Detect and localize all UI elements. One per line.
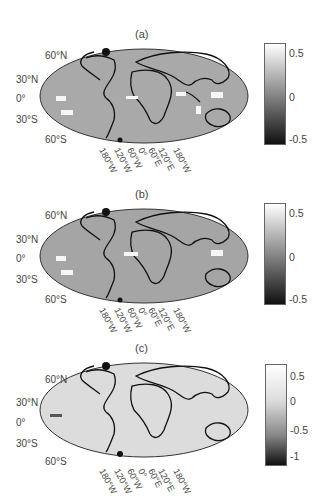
- lat-tick: 60°N: [45, 210, 67, 221]
- lat-tick: 30°S: [16, 274, 38, 285]
- colorbar-tick: -0.5: [289, 293, 307, 305]
- lat-tick: 60°S: [45, 134, 67, 145]
- world-map: [36, 200, 256, 306]
- panel-c: (c) 60°N 30°N 0° 30°S 60°S 180°W 120°W 6…: [0, 335, 329, 500]
- world-map: [36, 354, 256, 460]
- panel-b: (b) 60°N 30°N 0° 30°S 60°S 180°W 120°W 6…: [0, 170, 329, 335]
- lat-tick: 0°: [16, 417, 26, 428]
- lat-tick: 30°N: [16, 74, 38, 85]
- lat-tick: 60°S: [45, 456, 67, 467]
- lat-tick: 0°: [16, 93, 26, 104]
- lat-tick: 30°S: [16, 114, 38, 125]
- panel-title: (c): [135, 342, 148, 354]
- colorbar: [265, 364, 287, 466]
- colorbar-tick: 0.5: [290, 370, 305, 382]
- lat-tick: 30°N: [16, 234, 38, 245]
- colorbar-tick: -0.5: [289, 133, 307, 145]
- colorbar-tick: -1: [290, 450, 299, 462]
- colorbar-tick: -0.5: [290, 424, 308, 436]
- colorbar: [264, 203, 286, 305]
- colorbar-tick: 0: [289, 251, 295, 263]
- lon-tick: 180°W: [171, 467, 193, 496]
- colorbar-tick: 0: [290, 395, 296, 407]
- lat-tick: 30°S: [16, 438, 38, 449]
- panel-a: (a) 60°N 30°N 0° 30°S 60°S 180°W 120°W 6…: [0, 0, 329, 165]
- panel-title: (b): [135, 188, 148, 200]
- colorbar-tick: 0.5: [289, 207, 304, 219]
- panel-title: (a): [135, 28, 148, 40]
- lat-tick: 60°S: [45, 294, 67, 305]
- lat-tick: 60°N: [45, 374, 67, 385]
- lat-tick: 30°N: [16, 397, 38, 408]
- world-map: [36, 40, 256, 146]
- lon-tick: 180°W: [171, 306, 193, 335]
- colorbar: [264, 43, 286, 145]
- colorbar-tick: 0: [289, 91, 295, 103]
- colorbar-tick: 0.5: [289, 47, 304, 59]
- lat-tick: 0°: [16, 253, 26, 264]
- lat-tick: 60°N: [45, 50, 67, 61]
